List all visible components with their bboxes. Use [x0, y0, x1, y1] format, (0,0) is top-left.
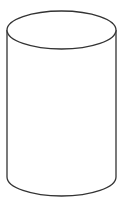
cylinder-body — [7, 30, 116, 196]
diagram-canvas — [0, 0, 127, 203]
cylinder-shape — [0, 0, 127, 203]
cylinder-top-ellipse — [7, 11, 116, 49]
